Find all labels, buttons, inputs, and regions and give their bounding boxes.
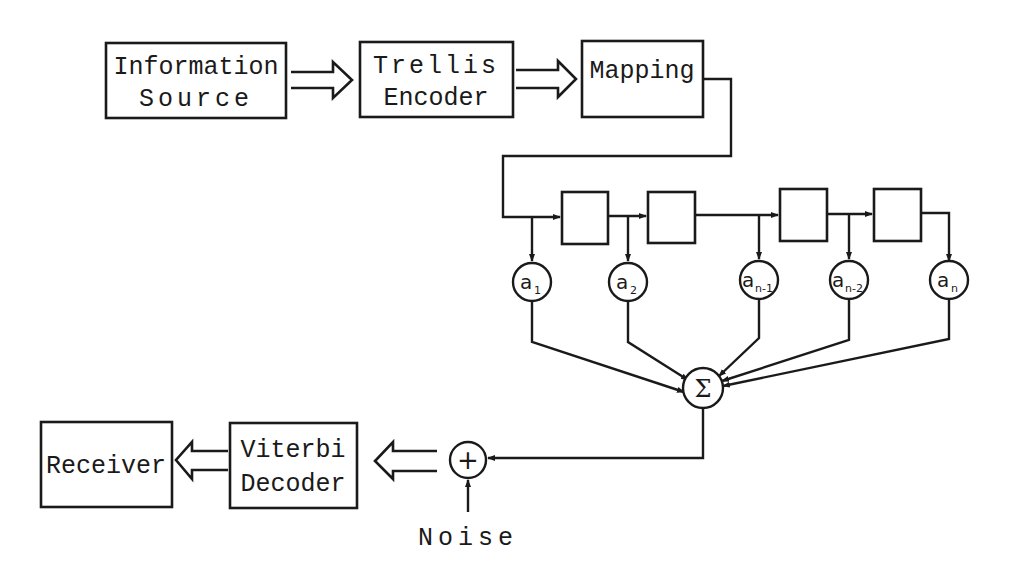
- trellis-encoder-label-line1: Trellis: [373, 52, 499, 81]
- mapping-label: Mapping: [589, 57, 694, 86]
- sum-input-line: [722, 299, 849, 381]
- viterbi-decoder-label-line2: Decoder: [240, 470, 345, 499]
- sum-input-line: [723, 299, 949, 386]
- trellis-encoder-label-line2: Encoder: [383, 84, 488, 113]
- svg-text:n-2: n-2: [845, 282, 863, 295]
- svg-text:a: a: [616, 270, 628, 294]
- noise-label: Noise: [418, 524, 518, 553]
- summation-node: Σ: [683, 368, 723, 408]
- tap-coefficient-an: a n: [930, 261, 968, 299]
- delay-element-1: [562, 192, 608, 244]
- double-arrow-icon: [516, 61, 576, 97]
- svg-text:a: a: [520, 270, 532, 294]
- delay-element-2: [648, 192, 695, 243]
- delay-element-3: [780, 189, 827, 241]
- svg-text:n-1: n-1: [755, 282, 773, 295]
- tap-coefficient-a2: a 2: [609, 263, 647, 301]
- tap-coefficient-an-2: a n-2: [830, 261, 868, 299]
- sum-input-line: [628, 301, 688, 380]
- viterbi-decoder-block: Viterbi Decoder: [230, 423, 357, 508]
- receiver-block: Receiver: [41, 422, 172, 507]
- sum-input-line: [719, 299, 759, 376]
- mapping-block: Mapping: [582, 41, 703, 117]
- sigma-icon: Σ: [695, 375, 712, 403]
- svg-text:n: n: [951, 282, 958, 295]
- svg-text:2: 2: [630, 284, 637, 297]
- noise-adder-node: +: [450, 442, 486, 478]
- receiver-label: Receiver: [46, 452, 166, 481]
- tap-coefficient-an-1: a n-1: [740, 261, 778, 299]
- channel-diagram: Information Source Trellis Encoder Mappi…: [0, 0, 1013, 576]
- double-arrow-icon: [291, 62, 352, 98]
- svg-text:a: a: [937, 268, 949, 292]
- svg-text:a: a: [742, 268, 754, 292]
- svg-text:1: 1: [534, 284, 541, 297]
- information-source-block: Information Source: [106, 43, 286, 118]
- double-arrow-icon: [176, 442, 228, 479]
- plus-icon: +: [457, 445, 479, 475]
- information-source-label-line2: Source: [139, 85, 253, 114]
- double-arrow-icon: [375, 442, 437, 479]
- delay-link: [921, 213, 949, 261]
- channel-output-line: [488, 408, 703, 458]
- information-source-label-line1: Information: [113, 53, 278, 82]
- trellis-encoder-block: Trellis Encoder: [360, 42, 513, 117]
- delay-element-4: [874, 189, 921, 241]
- viterbi-decoder-label-line1: Viterbi: [240, 436, 345, 465]
- tap-coefficient-a1: a 1: [513, 263, 551, 301]
- svg-text:a: a: [832, 268, 844, 292]
- sum-input-line: [532, 301, 684, 392]
